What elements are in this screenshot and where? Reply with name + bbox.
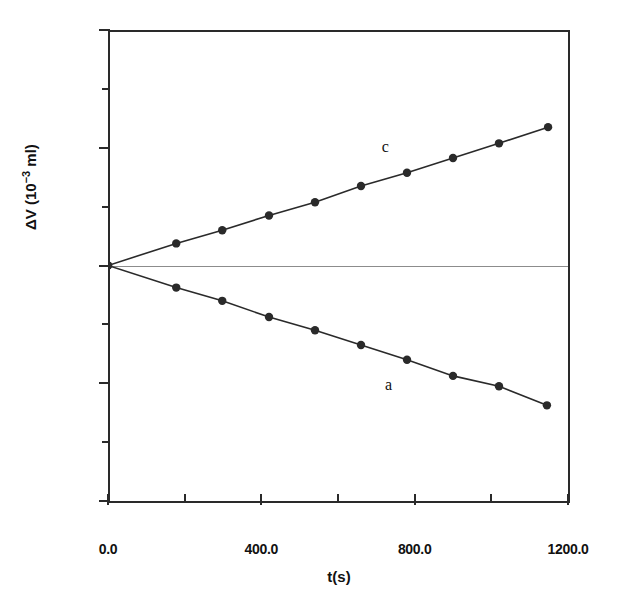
x-tick-minor: [490, 494, 492, 502]
data-point: [172, 283, 180, 291]
data-point: [357, 182, 365, 190]
axis-line-bottom: [108, 501, 570, 503]
x-tick-major: [567, 494, 569, 505]
y-tick-major: [99, 29, 110, 31]
y-tick-major: [99, 265, 110, 267]
y-tick-minor: [102, 441, 110, 443]
series-a: [108, 261, 551, 409]
y-axis-title: ΔV (10−3 ml): [20, 144, 39, 230]
x-tick-label: 800.0: [370, 541, 460, 557]
y-tick-minor: [102, 206, 110, 208]
x-tick-label: 1200.0: [523, 541, 613, 557]
y-axis-title-exponent: −3: [20, 171, 32, 184]
y-tick-minor: [102, 323, 110, 325]
zero-reference-line: [108, 266, 568, 267]
plot-area: 80400-40-800.0400.0800.01200.0 c a t(s) …: [108, 30, 570, 503]
x-tick-minor: [337, 494, 339, 502]
data-point: [311, 326, 319, 334]
data-point: [449, 372, 457, 380]
axis-line-right: [568, 30, 570, 503]
data-point: [218, 297, 226, 305]
data-point: [265, 211, 273, 219]
axis-line-top: [108, 30, 570, 32]
data-point: [265, 313, 273, 321]
data-point: [544, 123, 552, 131]
data-point: [357, 341, 365, 349]
x-tick-minor: [184, 494, 186, 502]
series-line-c: [108, 127, 548, 265]
x-tick-label: 400.0: [216, 541, 306, 557]
series-label-a: a: [385, 376, 392, 394]
data-point: [403, 356, 411, 364]
data-point: [311, 198, 319, 206]
y-tick-major: [99, 147, 110, 149]
y-axis-title-unit: ml): [22, 144, 39, 171]
data-point: [403, 169, 411, 177]
x-axis-title: t(s): [108, 568, 570, 585]
data-point: [543, 401, 551, 409]
series-c: [108, 123, 552, 270]
data-point: [218, 226, 226, 234]
x-tick-major: [414, 494, 416, 505]
data-point: [449, 154, 457, 162]
series-line-a: [108, 266, 547, 406]
series-label-c: c: [382, 138, 389, 156]
y-tick-minor: [102, 88, 110, 90]
data-point: [172, 239, 180, 247]
y-axis-title-main: ΔV (10: [22, 183, 39, 230]
x-tick-major: [107, 494, 109, 505]
x-tick-label: 0.0: [63, 541, 153, 557]
figure-canvas: 80400-40-800.0400.0800.01200.0 c a t(s) …: [0, 0, 619, 591]
x-tick-major: [260, 494, 262, 505]
data-point: [495, 382, 503, 390]
data-point: [495, 139, 503, 147]
y-tick-major: [99, 382, 110, 384]
